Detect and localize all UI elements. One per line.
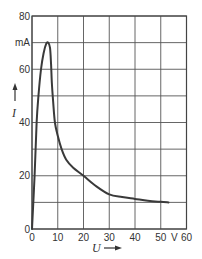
x-tick-label: 40 — [129, 232, 141, 243]
x-axis-arrowhead-icon — [115, 246, 122, 251]
y-tick-label: 40 — [19, 117, 31, 128]
x-tick-label: 0 — [29, 232, 35, 243]
x-axis-label: U — [92, 241, 122, 255]
y-tick-label: 0 — [24, 224, 30, 235]
y-tick-label: 60 — [19, 64, 31, 75]
data-curve — [32, 42, 168, 229]
x-tick-label: 30 — [104, 232, 116, 243]
y-tick-labels: 80mA6040200 — [15, 11, 30, 235]
x-tick-labels: 01020304050V60 — [29, 232, 192, 243]
x-tick-label: 50 — [155, 232, 167, 243]
y-tick-label: 80 — [19, 11, 31, 22]
x-tick-label: V — [171, 232, 178, 243]
y-tick-label: mA — [15, 37, 30, 48]
x-tick-label: 10 — [52, 232, 64, 243]
y-axis-arrowhead-icon — [13, 83, 18, 90]
y-axis-title: I — [11, 106, 17, 120]
x-tick-label: 60 — [181, 232, 193, 243]
x-axis-title: U — [92, 241, 102, 255]
current-voltage-chart: 01020304050V60 80mA6040200 I U — [0, 0, 202, 259]
y-axis-label: I — [11, 83, 18, 120]
x-tick-label: 20 — [78, 232, 90, 243]
y-tick-label: 20 — [19, 170, 31, 181]
